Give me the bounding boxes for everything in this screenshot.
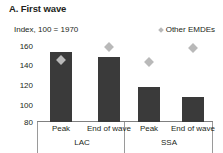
bar-ssa-end-of-wave <box>182 97 204 123</box>
y-tick-160: 160 <box>20 41 33 50</box>
x-group-lac: LAC <box>74 138 90 147</box>
y-tick-140: 140 <box>20 61 33 70</box>
y-axis-ticks: 160 140 120 100 80 <box>0 40 33 122</box>
page-title: A. First wave <box>9 3 66 14</box>
marker-other-emdes-ssa-peak <box>144 57 154 67</box>
x-tick-lac-end-of-wave: End of wave <box>87 124 131 133</box>
y-tick-100: 100 <box>20 100 33 109</box>
plot-area <box>37 40 213 122</box>
y-tick-80: 80 <box>24 118 33 127</box>
y-tick-120: 120 <box>20 81 33 90</box>
legend-label-other-emdes: Other EMDEs <box>166 25 215 34</box>
bar-lac-end-of-wave <box>98 57 120 122</box>
category-axis: Peak End of wave Peak End of wave LAC SS… <box>37 122 213 153</box>
y-axis-title: Index, 100 = 1970 <box>14 25 78 34</box>
bar-ssa-peak <box>138 87 160 123</box>
x-tick-ssa-end-of-wave: End of wave <box>171 124 215 133</box>
chart-legend: Other EMDEs <box>159 25 215 34</box>
marker-other-emdes-lac-end-of-wave <box>104 42 114 52</box>
chart-panel: A. First wave Index, 100 = 1970 Other EM… <box>0 0 223 153</box>
legend-marker-other-emdes-icon <box>158 27 164 33</box>
marker-other-emdes-ssa-end-of-wave <box>188 43 198 53</box>
x-group-ssa: SSA <box>161 138 177 147</box>
x-tick-lac-peak: Peak <box>52 124 70 133</box>
axis-separator-left <box>37 122 38 153</box>
x-tick-ssa-peak: Peak <box>140 124 158 133</box>
